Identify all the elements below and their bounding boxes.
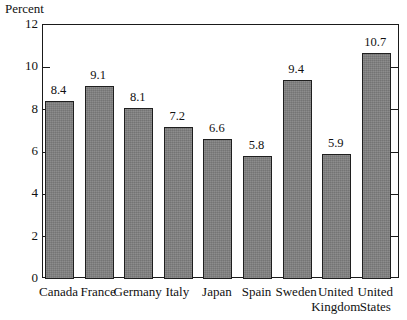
y-axis-tick-label: 12 [14, 17, 38, 30]
bar [164, 127, 193, 279]
bar-value-label: 8.1 [115, 91, 160, 104]
bar [203, 139, 232, 279]
y-axis-tick-label: 0 [14, 271, 38, 284]
y-axis-tick-label: 8 [14, 102, 38, 115]
y-axis-tick-right [391, 236, 398, 237]
y-axis-tick-right [391, 67, 398, 68]
bar [243, 156, 272, 279]
y-axis-tick-right [391, 152, 398, 153]
y-axis-tick-label: 4 [14, 186, 38, 199]
x-axis-category-label: UnitedStates [343, 284, 407, 314]
bar-value-label: 6.6 [194, 122, 239, 135]
y-axis-tick-right [391, 109, 398, 110]
bar [124, 108, 153, 279]
bar [85, 86, 114, 279]
bar-value-label: 9.1 [76, 69, 121, 82]
plot-frame [42, 24, 399, 278]
plot-area [43, 25, 398, 277]
bar-value-label: 5.8 [234, 139, 279, 152]
bar [45, 101, 74, 279]
category-label-line-1: United [358, 284, 393, 299]
y-axis-title: Percent [5, 1, 44, 16]
bar-value-label: 8.4 [36, 84, 81, 97]
bar-value-label: 10.7 [353, 36, 398, 49]
y-axis-tick-left [43, 67, 50, 68]
y-axis-tick-label: 6 [14, 144, 38, 157]
y-axis-tick-label: 2 [14, 229, 38, 242]
y-axis-tick-label: 10 [14, 59, 38, 72]
bar [322, 154, 351, 279]
bar-value-label: 7.2 [155, 110, 200, 123]
bar [362, 53, 391, 279]
category-label-line-2: States [343, 299, 407, 314]
bar-chart: Percent 024681012 8.49.18.17.26.65.89.45… [0, 0, 407, 320]
bar-value-label: 9.4 [274, 63, 319, 76]
bar-value-label: 5.9 [313, 137, 358, 150]
y-axis-tick-right [391, 194, 398, 195]
bar [283, 80, 312, 279]
